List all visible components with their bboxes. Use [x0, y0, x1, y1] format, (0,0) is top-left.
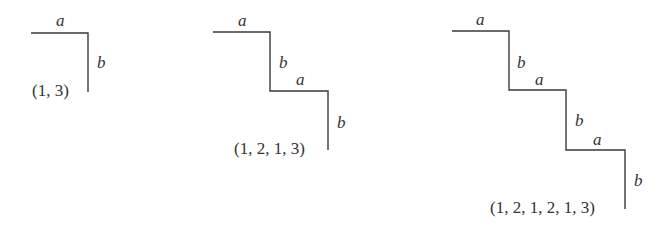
staircase-diagram-1: a b (1, 3)	[31, 11, 106, 100]
edge-label-b: b	[575, 111, 584, 130]
edge-label-a: a	[593, 130, 602, 149]
edge-label-a: a	[535, 70, 544, 89]
edge-label-b: b	[634, 171, 643, 190]
staircase-diagram-2: a b a b (1, 2, 1, 3)	[213, 11, 346, 158]
staircase-diagram-3: a b a b a b (1, 2, 1, 2, 1, 3)	[452, 10, 643, 217]
staircase-figure: a b (1, 3) a b a b (1, 2, 1, 3) a b a b …	[0, 0, 667, 229]
staircase-path-2	[213, 32, 328, 150]
edge-label-b: b	[279, 53, 288, 72]
edge-label-b: b	[337, 113, 346, 132]
tuple-label: (1, 3)	[32, 81, 69, 100]
edge-label-a: a	[56, 11, 65, 30]
tuple-label: (1, 2, 1, 3)	[234, 139, 305, 158]
edge-label-a: a	[238, 11, 247, 30]
edge-label-a: a	[296, 70, 305, 89]
edge-label-a: a	[476, 10, 485, 29]
edge-label-b: b	[97, 53, 106, 72]
staircase-path-3	[452, 31, 625, 209]
edge-label-b: b	[517, 53, 526, 72]
tuple-label: (1, 2, 1, 2, 1, 3)	[490, 198, 595, 217]
